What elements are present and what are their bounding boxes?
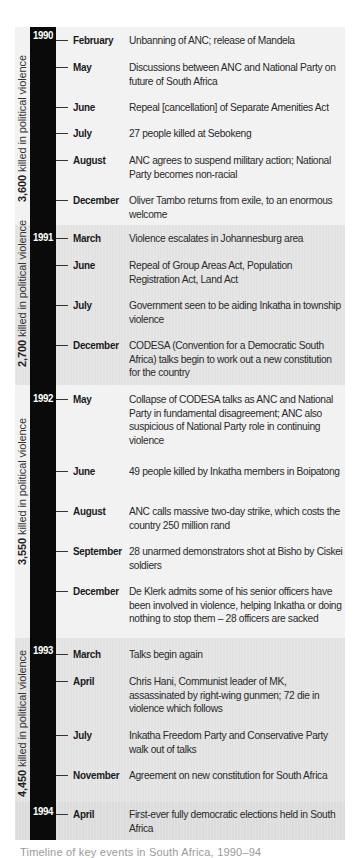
figure-caption: Timeline of key events in South Africa, … [20, 846, 261, 858]
year-label-1994: 1994 [31, 805, 55, 817]
event-description: CODESA (Convention for a Democratic Sout… [129, 339, 345, 380]
deaths-label-1990: 3,600 killed in political violence [16, 55, 28, 202]
tick-mark [56, 511, 68, 512]
event-description: Repeal of Group Areas Act, Population Re… [129, 259, 345, 286]
event-month: May [73, 393, 91, 407]
event-month: August [73, 505, 105, 519]
tick-mark [56, 551, 68, 552]
event-description: 49 people killed by Inkatha members in B… [129, 465, 345, 479]
deaths-count: 2,700 [16, 340, 28, 367]
deaths-text: killed in political violence [16, 650, 28, 770]
deaths-label-1991: 2,700 killed in political violence [16, 220, 28, 367]
event-month: July [73, 729, 92, 743]
event-month: December [73, 339, 119, 353]
event-month: June [73, 259, 95, 273]
event-description: First-ever fully democratic elections he… [129, 808, 345, 835]
deaths-count: 3,550 [16, 538, 28, 565]
tick-mark [56, 200, 68, 201]
event-description: Violence escalates in Johannesburg area [129, 232, 345, 246]
tick-mark [56, 305, 68, 306]
event-description: Talks begin again [129, 648, 345, 662]
event-description: 27 people killed at Sebokeng [129, 127, 345, 141]
tick-mark [56, 681, 68, 682]
event-description: ANC calls massive two-day strike, which … [129, 505, 345, 532]
deaths-text: killed in political violence [16, 220, 28, 340]
event-description: Chris Hani, Communist leader of MK, assa… [129, 675, 345, 716]
event-month: September [73, 545, 122, 559]
deaths-label-1992: 3,550 killed in political violence [16, 418, 28, 565]
tick-mark [56, 133, 68, 134]
event-month: March [73, 232, 101, 246]
tick-mark [56, 160, 68, 161]
event-description: ANC agrees to suspend military action; N… [129, 154, 345, 181]
event-description: Oliver Tambo returns from exile, to an e… [129, 194, 345, 221]
tick-mark [56, 654, 68, 655]
deaths-label-1993: 4,450 killed in political violence [16, 650, 28, 797]
deaths-text: killed in political violence [16, 55, 28, 175]
timeline-panel: 1990 1991 1992 1993 1994 3,600 killed in… [15, 27, 345, 840]
event-description: De Klerk admits some of his senior offic… [129, 585, 345, 626]
event-month: April [73, 675, 94, 689]
event-month: June [73, 465, 95, 479]
event-description: Government seen to be aiding Inkatha in … [129, 299, 345, 326]
event-description: Collapse of CODESA talks as ANC and Nati… [129, 393, 345, 447]
event-description: Repeal [cancellation] of Separate Amenit… [129, 101, 345, 115]
tick-mark [56, 265, 68, 266]
event-month: December [73, 194, 119, 208]
event-month: April [73, 808, 94, 822]
event-description: Inkatha Freedom Party and Conservative P… [129, 729, 345, 756]
tick-mark [56, 735, 68, 736]
event-month: November [73, 769, 119, 783]
event-description: Agreement on new constitution for South … [129, 769, 345, 783]
event-month: December [73, 585, 119, 599]
event-month: February [73, 34, 113, 48]
year-label-1992: 1992 [31, 392, 55, 404]
tick-mark [56, 345, 68, 346]
year-label-1991: 1991 [31, 231, 55, 243]
event-month: June [73, 101, 95, 115]
event-description: 28 unarmed demonstrators shot at Bisho b… [129, 545, 345, 572]
deaths-count: 4,450 [16, 770, 28, 797]
year-label-1993: 1993 [31, 644, 55, 656]
event-description: Unbanning of ANC; release of Mandela [129, 34, 345, 48]
deaths-text: killed in political violence [16, 418, 28, 538]
tick-mark [56, 67, 68, 68]
year-label-1990: 1990 [31, 29, 55, 41]
tick-mark [56, 471, 68, 472]
tick-mark [56, 238, 68, 239]
timeline-bar [30, 27, 56, 840]
tick-mark [56, 775, 68, 776]
event-month: July [73, 299, 92, 313]
event-month: May [73, 61, 91, 75]
tick-mark [56, 814, 68, 815]
tick-mark [56, 591, 68, 592]
event-description: Discussions between ANC and National Par… [129, 61, 345, 88]
event-month: July [73, 127, 92, 141]
event-month: March [73, 648, 101, 662]
deaths-count: 3,600 [16, 175, 28, 202]
event-month: August [73, 154, 105, 168]
tick-mark [56, 40, 68, 41]
tick-mark [56, 399, 68, 400]
tick-mark [56, 107, 68, 108]
